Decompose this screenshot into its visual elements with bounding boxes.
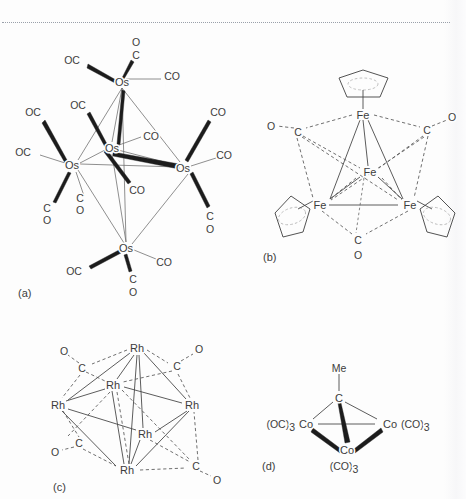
ligand-label-a18: OC: [66, 265, 82, 277]
ligand-label-a3: OC: [64, 54, 80, 66]
atom-label-fe-left: Fe: [314, 199, 327, 211]
panel-label-c: (c): [53, 481, 66, 493]
ligand-label-b5: C: [354, 234, 362, 246]
ligand-label-d-front: (CO)3: [330, 460, 359, 475]
ligand-label-a2: C: [132, 49, 140, 61]
ligand-label-a1: O: [132, 36, 140, 48]
ligand-label-b6: O: [354, 249, 362, 261]
panel-label-b: (b): [263, 251, 276, 263]
atom-label-rh-top: Rh: [130, 342, 144, 354]
ligand-label-a6: CO: [143, 130, 159, 142]
figure-page: Os Os Os Os Os O C OC CO OC CO OC OC C O…: [0, 0, 466, 499]
panel-b-atom-labels: Fe Fe Fe Fe: [314, 109, 417, 211]
atom-label-os-equat-left: Os: [65, 159, 80, 171]
panel-d-bonds: [311, 374, 383, 453]
atom-label-fe-right: Fe: [404, 199, 417, 211]
panel-d-ligand-labels: Me (OC)3 (CO)3 (CO)3: [266, 362, 429, 475]
panel-b-ligand-labels: O C O C C O: [267, 111, 456, 261]
panel-d-cobalt-cluster: C Co Co Co Me (OC)3 (CO)3 (CO)3 (d): [262, 362, 430, 475]
ligand-label-c6: O: [51, 446, 59, 458]
panel-c-rhodium-cluster: Rh Rh Rh Rh Rh Rh O C O C C O C O (c): [51, 342, 221, 493]
ligand-label-a4: CO: [164, 70, 180, 82]
ligand-label-a14: CO: [210, 106, 226, 118]
ligand-label-b3: O: [448, 111, 456, 123]
panel-b-iron-cluster: Fe Fe Fe Fe O C O C C O (b): [263, 70, 456, 263]
ligand-label-a21: O: [129, 286, 137, 298]
ligand-label-c4: C: [173, 360, 181, 372]
cluster-structures-figure: Os Os Os Os Os O C OC CO OC CO OC OC C O…: [0, 0, 466, 499]
panel-a-osmium-cluster: Os Os Os Os Os O C OC CO OC CO OC OC C O…: [15, 36, 232, 299]
atom-label-co-right: Co: [383, 418, 397, 430]
ligand-label-a13: CO: [129, 184, 145, 196]
ligand-label-a17: O: [206, 223, 214, 235]
panel-b-cp-ring-left: [275, 196, 313, 237]
atom-label-os-apex-top: Os: [115, 76, 130, 88]
atom-label-rh-bottom: Rh: [120, 464, 134, 476]
panel-label-d: (d): [262, 460, 275, 472]
ligand-label-a16: C: [206, 210, 214, 222]
atom-label-os-equat-mid: Os: [105, 142, 120, 154]
ligand-label-c3: O: [195, 343, 203, 355]
atom-label-rh-right: Rh: [185, 399, 199, 411]
ligand-label-a11: C: [76, 192, 84, 204]
ligand-label-a20: C: [129, 273, 137, 285]
ligand-label-c7: C: [192, 460, 200, 472]
ligand-label-me: Me: [332, 362, 347, 374]
ligand-label-a8: OC: [15, 146, 31, 158]
atom-label-co-front: Co: [340, 444, 354, 456]
ligand-label-c2: C: [78, 362, 86, 374]
atom-label-fe-top: Fe: [357, 109, 370, 121]
panel-b-bridging-co-bonds: [277, 115, 447, 234]
ligand-label-a5: OC: [70, 99, 86, 111]
atom-label-rh-left: Rh: [51, 399, 65, 411]
ligand-label-c1: O: [60, 345, 68, 357]
atom-label-co-left: Co: [299, 418, 313, 430]
ligand-label-a7: OC: [25, 106, 41, 118]
ligand-label-d-left: (OC)3: [266, 418, 295, 433]
ligand-label-b2: C: [294, 126, 302, 138]
ligand-label-c5: C: [75, 437, 83, 449]
atom-label-fe-center: Fe: [364, 166, 377, 178]
ligand-label-a19: CO: [156, 256, 172, 268]
atom-label-c-apex: C: [335, 392, 343, 404]
atom-label-rh-inner: Rh: [106, 379, 120, 391]
atom-label-os-apex-bottom: Os: [119, 242, 134, 254]
ligand-label-a9: C: [43, 202, 51, 214]
ligand-label-c8: O: [213, 474, 221, 486]
panel-label-a: (a): [18, 287, 31, 299]
panel-b-cp-ring-right: [417, 196, 455, 237]
ligand-label-a12: O: [76, 204, 84, 216]
ligand-label-a10: O: [43, 214, 51, 226]
panel-b-cp-ring-top: [339, 70, 388, 109]
atom-label-os-equat-right: Os: [176, 162, 191, 174]
ligand-label-b1: O: [267, 120, 275, 132]
ligand-label-b4: C: [423, 124, 431, 136]
ligand-label-a15: CO: [216, 149, 232, 161]
atom-label-rh-mid: Rh: [138, 428, 152, 440]
ligand-label-d-right: (CO)3: [401, 418, 430, 433]
